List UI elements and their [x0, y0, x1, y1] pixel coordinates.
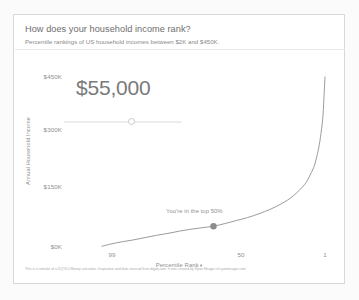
curve-line — [102, 77, 325, 246]
page-title: How does your household income rank? — [25, 23, 334, 35]
income-percentile-curve — [14, 50, 344, 264]
screenshot-root: How does your household income rank? Per… — [0, 0, 359, 300]
card-header: How does your household income rank? Per… — [25, 23, 334, 46]
highlight-data-point[interactable] — [210, 223, 216, 229]
footer-credit: This is a remake of a DQYDJ Money calcul… — [25, 267, 336, 272]
chart-card: How does your household income rank? Per… — [13, 14, 345, 284]
page-subtitle: Percentile rankings of US household inco… — [25, 37, 334, 46]
chart-plot-area: Annual Household Income $450K $300K $150… — [14, 50, 344, 264]
